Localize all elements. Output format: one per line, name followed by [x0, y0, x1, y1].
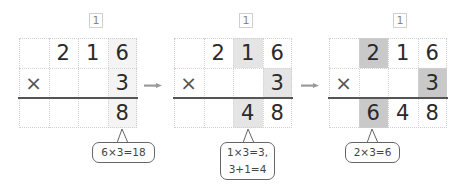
cell-r1c3: 1 [78, 38, 108, 68]
cell-r2c4: 3 [108, 68, 138, 98]
cell-r1c4: 6 [108, 38, 138, 68]
sum-rule-line [18, 97, 138, 99]
cell-r3c1 [19, 98, 49, 128]
cell-r3c1 [329, 98, 359, 128]
times-sign: × [174, 68, 204, 98]
cell-r2c2 [359, 68, 389, 98]
right-arrow-icon [301, 83, 319, 88]
multiplication-grid-step-2: 2 1 6 × 3 4 8 [174, 38, 292, 128]
right-arrow-icon [144, 83, 162, 88]
cell-r2c4: 3 [263, 68, 293, 98]
cell-r3c3: 4 [233, 98, 263, 128]
sum-rule-line [328, 97, 448, 99]
cell-r1c1 [19, 38, 49, 68]
explanation-bubble-step-2: 1×3=3, 3+1=4 [220, 142, 275, 180]
cell-r2c3 [78, 68, 108, 98]
multiplication-grid-step-1: 2 1 6 × 3 8 [19, 38, 137, 128]
cell-r2c3 [388, 68, 418, 98]
cell-r1c3: 1 [233, 38, 263, 68]
cell-r3c4: 8 [418, 98, 448, 128]
cell-r2c3 [233, 68, 263, 98]
cell-r2c2 [49, 68, 79, 98]
explanation-bubble-step-1: 6×3=18 [92, 142, 155, 163]
cell-r3c2 [49, 98, 79, 128]
cell-r3c2: 6 [359, 98, 389, 128]
cell-r1c2: 2 [49, 38, 79, 68]
sum-rule-line [173, 97, 293, 99]
cell-r3c4: 8 [263, 98, 293, 128]
cell-r1c4: 6 [418, 38, 448, 68]
cell-r2c4: 3 [418, 68, 448, 98]
cell-r2c2 [204, 68, 234, 98]
cell-r1c1 [174, 38, 204, 68]
cell-r1c3: 1 [388, 38, 418, 68]
cell-r3c1 [174, 98, 204, 128]
cell-r1c2: 2 [204, 38, 234, 68]
carry-box-step-3: 1 [393, 13, 407, 28]
cell-r3c3: 4 [388, 98, 418, 128]
cell-r3c2 [204, 98, 234, 128]
carry-box-step-2: 1 [239, 13, 253, 28]
bubble-line-1: 6×3=18 [101, 144, 145, 161]
times-sign: × [329, 68, 359, 98]
bubble-line-1: 1×3=3, [227, 144, 268, 161]
carry-box-step-1: 1 [89, 13, 103, 28]
cell-r3c4: 8 [108, 98, 138, 128]
cell-r1c1 [329, 38, 359, 68]
times-sign: × [19, 68, 49, 98]
cell-r3c3 [78, 98, 108, 128]
bubble-line-2: 3+1=4 [229, 161, 267, 178]
multiplication-grid-step-3: 2 1 6 × 3 6 4 8 [329, 38, 447, 128]
cell-r1c2: 2 [359, 38, 389, 68]
cell-r1c4: 6 [263, 38, 293, 68]
bubble-line-1: 2×3=6 [354, 144, 392, 161]
explanation-bubble-step-3: 2×3=6 [345, 142, 400, 163]
